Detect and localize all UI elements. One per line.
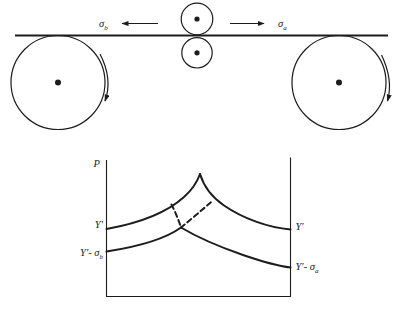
neutral-point-dashed-line-left <box>172 205 182 228</box>
right-yield-minus-front-label: Y′- σa <box>296 261 319 275</box>
right-coiler-center-dot <box>336 80 342 86</box>
entry-pressure-curve <box>107 174 201 229</box>
entry-pressure-back-tension-curve <box>107 228 182 252</box>
exit-pressure-curve <box>200 174 291 230</box>
pressure-axis-label: P <box>93 158 101 169</box>
rolling-tension-figure: σb σa P Y′ Y′- σb Y′ Y′- σa <box>0 0 401 309</box>
bottom-work-roll-center-dot <box>194 50 199 55</box>
top-work-roll-center-dot <box>194 16 199 21</box>
neutral-point-dashed-line-right <box>181 201 213 228</box>
left-coiler-center-dot <box>55 80 61 86</box>
back-tension-label: σb <box>99 18 108 32</box>
front-tension-label: σa <box>278 18 287 32</box>
left-yield-minus-back-label: Y′- σb <box>80 247 103 261</box>
figure-canvas: σb σa P Y′ Y′- σb Y′ Y′- σa <box>0 0 401 309</box>
rolling-schematic: σb σa <box>11 3 390 129</box>
left-yield-label: Y′ <box>95 219 104 230</box>
right-yield-label: Y′ <box>296 221 305 232</box>
exit-pressure-front-tension-curve <box>181 228 291 268</box>
pressure-plot: P Y′ Y′- σb Y′ Y′- σa <box>80 158 319 297</box>
